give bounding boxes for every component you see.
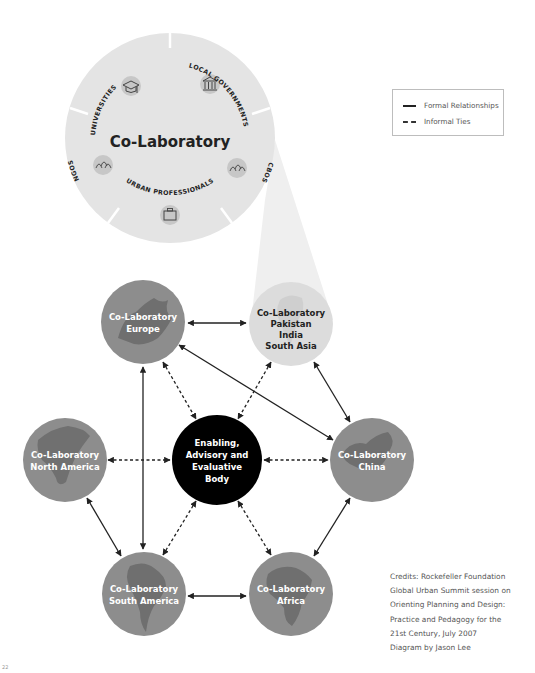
co-laboratory-title: Co-Laboratory xyxy=(110,133,231,151)
svg-text:Europe: Europe xyxy=(126,324,160,334)
node-africa: Co-Laboratory Africa xyxy=(249,552,333,636)
svg-text:Co-Laboratory: Co-Laboratory xyxy=(31,450,100,460)
graduation-cap-icon xyxy=(121,76,141,96)
svg-text:Co-Laboratory: Co-Laboratory xyxy=(109,312,178,322)
dashed-line-icon xyxy=(403,121,416,123)
link-europe-center xyxy=(163,362,196,419)
node-north-america: Co-Laboratory North America xyxy=(23,418,107,502)
svg-text:Evaluative: Evaluative xyxy=(192,462,242,472)
svg-text:North America: North America xyxy=(30,462,100,472)
co-laboratory-detail: Co-Laboratory xyxy=(65,33,275,243)
node-south-asia: Co-Laboratory Pakistan India South Asia xyxy=(249,282,333,366)
svg-text:Enabling,: Enabling, xyxy=(195,438,240,448)
legend-formal: Formal Relationships xyxy=(403,101,499,110)
svg-text:Pakistan: Pakistan xyxy=(270,319,311,329)
node-south-america: Co-Laboratory South America xyxy=(102,552,186,636)
link-china-africa xyxy=(314,498,350,556)
svg-text:Co-Laboratory: Co-Laboratory xyxy=(257,584,326,594)
legend: Formal Relationships Informal Ties xyxy=(392,89,504,136)
node-center-body: Enabling, Advisory and Evaluative Body xyxy=(172,415,262,505)
credits: Credits: Rockefeller Foundation Global U… xyxy=(390,570,535,655)
link-center-southamerica xyxy=(163,501,196,555)
link-southasia-center xyxy=(238,362,271,419)
page-number: 22 xyxy=(2,664,8,670)
briefcase-icon xyxy=(160,205,180,225)
link-southasia-china xyxy=(314,362,350,422)
node-europe: Co-Laboratory Europe xyxy=(101,280,185,364)
community-group-icon xyxy=(227,158,247,178)
svg-text:South Asia: South Asia xyxy=(265,341,317,351)
svg-text:Body: Body xyxy=(205,474,229,484)
svg-text:Africa: Africa xyxy=(277,596,305,606)
svg-text:India: India xyxy=(279,330,303,340)
link-center-africa xyxy=(238,501,271,555)
svg-text:China: China xyxy=(359,462,386,472)
svg-text:South America: South America xyxy=(109,596,179,606)
link-northamerica-southamerica xyxy=(87,498,121,556)
legend-informal: Informal Ties xyxy=(403,117,470,126)
people-group-icon xyxy=(93,155,113,175)
svg-text:Co-Laboratory: Co-Laboratory xyxy=(110,584,179,594)
solid-line-icon xyxy=(403,105,416,107)
svg-text:Co-Laboratory: Co-Laboratory xyxy=(338,450,407,460)
svg-text:Co-Laboratory: Co-Laboratory xyxy=(257,308,326,318)
svg-text:Advisory and: Advisory and xyxy=(186,450,249,460)
node-china: Co-Laboratory China xyxy=(330,418,414,502)
